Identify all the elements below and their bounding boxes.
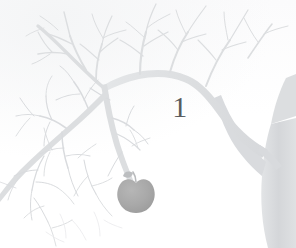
chapter-opener-page: 1 xyxy=(0,0,296,248)
apple xyxy=(117,172,154,213)
faint-twig-tips xyxy=(46,212,122,242)
upper-left-branch xyxy=(26,12,126,88)
apple-tree-illustration xyxy=(0,0,296,248)
apple-stem xyxy=(133,172,136,182)
chapter-number: 1 xyxy=(0,92,296,122)
apple-body xyxy=(117,179,154,213)
